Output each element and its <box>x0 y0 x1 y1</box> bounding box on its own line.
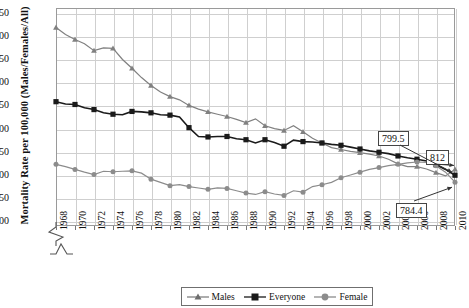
leader-line <box>400 145 452 172</box>
legend-marker-triangle-icon <box>187 292 209 302</box>
legend-item-males[interactable]: Males <box>187 292 235 302</box>
legend-label-everyone: Everyone <box>268 292 305 302</box>
legend-label-males: Males <box>211 292 235 302</box>
legend-item-female[interactable]: Female <box>314 292 367 302</box>
leader-arrowhead <box>447 187 452 191</box>
chart-container: Mortality Rate per 100,000 (Males/Female… <box>0 0 469 308</box>
leader-line <box>414 187 452 201</box>
legend-label-female: Female <box>338 292 367 302</box>
legend-marker-circle-icon <box>314 292 336 302</box>
leader-arrowhead <box>449 163 454 167</box>
annotation-leader-lines <box>0 0 469 308</box>
chart-legend: Males Everyone Female <box>181 287 373 306</box>
legend-marker-square-icon <box>244 292 266 302</box>
legend-item-everyone[interactable]: Everyone <box>244 292 305 302</box>
